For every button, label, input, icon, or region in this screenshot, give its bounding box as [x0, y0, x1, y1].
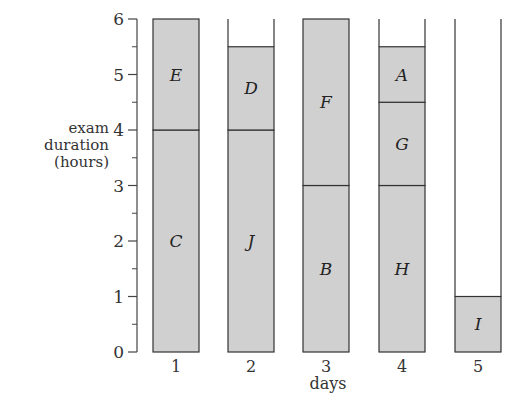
- x-axis-label: days: [300, 374, 356, 393]
- exam-label: E: [169, 65, 183, 85]
- y-axis: 0123456: [113, 9, 137, 362]
- y-tick-label: 4: [113, 120, 124, 140]
- exam-label: C: [169, 231, 182, 251]
- day-column-2: JD: [228, 19, 274, 352]
- y-tick-label: 5: [113, 65, 124, 85]
- day-column-4: HGA: [379, 19, 425, 352]
- day-column-1: CE: [153, 19, 199, 352]
- y-tick-label: 3: [113, 176, 124, 196]
- exam-label: D: [243, 78, 258, 98]
- exam-label: F: [319, 92, 333, 112]
- exam-label: B: [319, 259, 333, 279]
- x-tick-label: 2: [246, 357, 256, 376]
- x-tick-label: 5: [473, 357, 483, 376]
- exam-schedule-chart: 0123456 CEJDBFHGAI 12345: [0, 0, 509, 406]
- y-axis-label: exam duration (hours): [44, 120, 109, 171]
- y-tick-label: 2: [113, 231, 124, 251]
- y-axis-label-line: (hours): [44, 154, 109, 171]
- bars: CEJDBFHGAI: [153, 19, 501, 352]
- y-tick-label: 1: [113, 287, 124, 307]
- y-axis-label-line: duration: [44, 137, 109, 154]
- exam-label: A: [394, 65, 408, 85]
- y-tick-label: 6: [113, 9, 124, 29]
- day-column-3: BF: [303, 19, 349, 352]
- x-tick-label: 4: [397, 357, 407, 376]
- y-tick-label: 0: [113, 342, 124, 362]
- x-tick-label: 1: [171, 357, 181, 376]
- day-column-5: I: [455, 19, 501, 352]
- exam-label: G: [395, 134, 409, 154]
- y-axis-label-line: exam: [44, 120, 109, 137]
- exam-label: H: [394, 259, 411, 279]
- exam-label: I: [474, 314, 482, 334]
